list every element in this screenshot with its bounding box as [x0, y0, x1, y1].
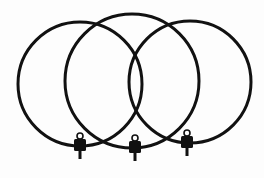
- left-connector-icon: [74, 133, 86, 159]
- middle-connector-icon: [129, 135, 141, 161]
- right-connector-icon: [181, 130, 193, 156]
- illustration-canvas: [0, 0, 264, 178]
- loops-illustration: [0, 0, 264, 178]
- right-loop: [129, 21, 251, 143]
- middle-loop: [65, 14, 199, 148]
